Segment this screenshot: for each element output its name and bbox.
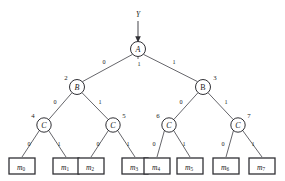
- edge-C0-to-m0: [22, 130, 40, 157]
- leaf-m0[interactable]: m0: [9, 158, 35, 174]
- node-B-left-label: B: [75, 83, 80, 92]
- edge-C3-to-m6: [226, 130, 234, 157]
- edge-label-C2-1: 1: [182, 140, 185, 147]
- edge-Bleft-to-C0: [49, 93, 72, 120]
- node-C-2-label: C: [166, 121, 172, 130]
- node-B-right-label: B: [200, 83, 205, 92]
- leaf-m7[interactable]: m7: [249, 158, 275, 174]
- node-B-left-index: 2: [64, 74, 68, 81]
- node-C-3-index: 7: [247, 112, 251, 119]
- node-C-0-label: C: [41, 121, 47, 130]
- edge-A-to-Bleft: [82, 54, 132, 81]
- leaf-m2[interactable]: m2: [78, 158, 104, 174]
- node-C-3[interactable]: C 7: [231, 112, 251, 133]
- edge-label-C0-1: 1: [57, 140, 60, 147]
- edge-Bright-to-C3: [208, 93, 233, 120]
- edge-label-Bleft-0: 0: [53, 98, 56, 105]
- input-label-Y: Y: [136, 10, 141, 19]
- decision-tree-figure: Y A: [0, 0, 285, 181]
- node-B-left[interactable]: B 2: [64, 74, 84, 95]
- edge-A-to-Bright: [143, 54, 197, 81]
- edge-label-A-center: 1: [137, 60, 140, 67]
- edge-label-C0-0: 0: [27, 140, 30, 147]
- node-A-label: A: [135, 45, 141, 54]
- node-C-2-index: 6: [156, 112, 160, 119]
- node-C-1-label: C: [110, 121, 116, 130]
- node-C-2[interactable]: C 6: [156, 112, 176, 133]
- edge-C2-to-m4: [157, 130, 165, 157]
- node-C-3-label: C: [235, 121, 241, 130]
- leaf-m1[interactable]: m1: [53, 158, 79, 174]
- node-C-0[interactable]: C 4: [31, 112, 51, 133]
- edge-label-C1-1: 1: [126, 140, 129, 147]
- edge-label-C3-1: 1: [251, 140, 254, 147]
- edge-labels: 0 1 1 0 1 0 1 0 1 0 1 0 1 0 1: [27, 58, 254, 147]
- node-B-right[interactable]: B 3: [196, 74, 218, 95]
- tree-diagram-canvas: Y A: [0, 0, 285, 181]
- edges-level-2: [49, 93, 233, 120]
- edge-label-C2-0: 0: [152, 140, 155, 147]
- edges-level-1: [82, 54, 197, 81]
- node-A[interactable]: A: [131, 42, 146, 57]
- node-B-right-index: 3: [213, 74, 217, 81]
- edge-label-Bright-0: 0: [179, 98, 182, 105]
- edge-label-A-right: 1: [172, 58, 175, 65]
- leaf-nodes: m0 m1 m2 m3 m4 m5: [9, 158, 275, 174]
- leaf-m5[interactable]: m5: [177, 158, 203, 174]
- edge-label-C1-0: 0: [96, 140, 99, 147]
- edge-C1-to-m2: [91, 130, 109, 157]
- edge-label-Bleft-1: 1: [98, 98, 101, 105]
- input-arrow-group: Y: [135, 10, 141, 43]
- leaf-m6[interactable]: m6: [213, 158, 239, 174]
- node-C-1-index: 5: [122, 112, 126, 119]
- edge-Bright-to-C2: [174, 93, 198, 120]
- edge-label-A-left: 0: [102, 58, 105, 65]
- node-C-1[interactable]: C 5: [106, 112, 126, 133]
- edge-label-C3-0: 0: [221, 140, 224, 147]
- edge-label-Bright-1: 1: [224, 98, 227, 105]
- node-C-0-index: 4: [31, 112, 35, 119]
- edge-Bleft-to-C1: [82, 93, 108, 120]
- leaf-m4[interactable]: m4: [144, 158, 170, 174]
